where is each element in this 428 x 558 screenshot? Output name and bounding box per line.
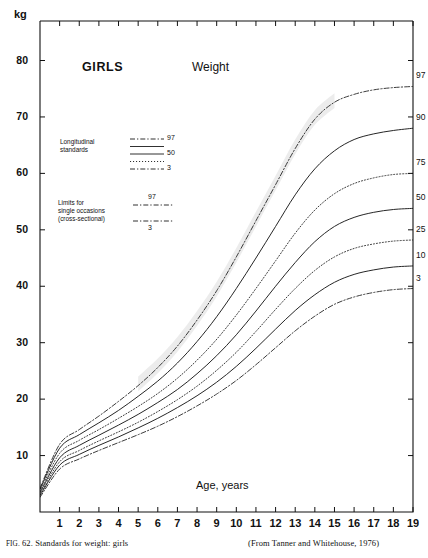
y-tick-20: 20 xyxy=(2,392,28,404)
y-tick-40: 40 xyxy=(2,279,28,291)
percentile-label-3: 3 xyxy=(416,273,421,283)
x-tick-14: 14 xyxy=(306,517,324,529)
y-axis-unit-label: kg xyxy=(14,8,27,20)
x-tick-10: 10 xyxy=(227,517,245,529)
percentile-label-10: 10 xyxy=(416,250,425,260)
chart-title-group: GIRLS xyxy=(82,60,123,74)
legend-number-crosssectional-3: 3 xyxy=(148,224,152,231)
legend-number-longitudinal-3: 3 xyxy=(167,164,171,171)
legend-crosssectional-label: Limits for single occasions (cross-secti… xyxy=(58,199,105,224)
percentile-label-97: 97 xyxy=(416,70,425,80)
chart-canvas xyxy=(0,0,428,558)
x-tick-13: 13 xyxy=(286,517,304,529)
percentile-curves xyxy=(40,86,413,497)
legend-crosssectional-line3: (cross-sectional) xyxy=(58,215,105,222)
y-tick-50: 50 xyxy=(2,223,28,235)
percentile-label-90: 90 xyxy=(416,112,425,122)
x-tick-17: 17 xyxy=(365,517,383,529)
chart-title-measure: Weight xyxy=(192,60,229,74)
x-tick-15: 15 xyxy=(325,517,343,529)
figure-caption-left: FIG. 62. Standards for weight: girls xyxy=(6,538,128,548)
legend-crosssectional-line2: single occasions xyxy=(58,207,105,214)
figure-caption-right: (From Tanner and Whitehouse, 1976) xyxy=(248,538,379,548)
y-tick-70: 70 xyxy=(2,110,28,122)
x-tick-11: 11 xyxy=(247,517,265,529)
curve-percentile-97 xyxy=(40,86,413,488)
y-tick-60: 60 xyxy=(2,166,28,178)
figure-caption-prefix: FIG. xyxy=(6,540,20,548)
legend-longitudinal-label: Longitudinal standards xyxy=(60,138,94,154)
x-tick-3: 3 xyxy=(90,517,108,529)
legend-number-longitudinal-97: 97 xyxy=(167,134,175,141)
legend-longitudinal-line2: standards xyxy=(60,146,88,153)
growth-chart-figure: kg GIRLS Weight Age, years Longitudinal … xyxy=(0,0,428,558)
x-tick-2: 2 xyxy=(70,517,88,529)
y-tick-10: 10 xyxy=(2,449,28,461)
x-tick-12: 12 xyxy=(267,517,285,529)
legend-crosssectional-line1: Limits for xyxy=(58,199,84,206)
x-tick-16: 16 xyxy=(345,517,363,529)
figure-caption-text: 62. Standards for weight: girls xyxy=(20,538,129,548)
x-axis-label: Age, years xyxy=(196,479,249,491)
x-tick-5: 5 xyxy=(129,517,147,529)
percentile-label-75: 75 xyxy=(416,157,425,167)
legend-number-crosssectional-97: 97 xyxy=(148,193,156,200)
x-tick-6: 6 xyxy=(149,517,167,529)
curve-percentile-3 xyxy=(40,289,413,498)
percentile-label-50: 50 xyxy=(416,192,425,202)
y-tick-30: 30 xyxy=(2,336,28,348)
x-tick-7: 7 xyxy=(168,517,186,529)
x-tick-19: 19 xyxy=(404,517,422,529)
x-tick-9: 9 xyxy=(208,517,226,529)
x-tick-8: 8 xyxy=(188,517,206,529)
legend-longitudinal-line1: Longitudinal xyxy=(60,138,94,145)
x-tick-1: 1 xyxy=(51,517,69,529)
x-tick-18: 18 xyxy=(384,517,402,529)
x-tick-4: 4 xyxy=(110,517,128,529)
y-tick-80: 80 xyxy=(2,54,28,66)
percentile-label-25: 25 xyxy=(416,224,425,234)
curve-percentile-50 xyxy=(40,208,413,492)
curve-percentile-10 xyxy=(40,266,413,496)
legend-number-longitudinal-50: 50 xyxy=(167,149,175,156)
